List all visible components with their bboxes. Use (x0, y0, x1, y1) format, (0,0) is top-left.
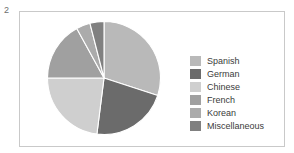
legend-item: German (190, 67, 282, 80)
pie-chart-svg (47, 21, 161, 135)
legend-item: Miscellaneous (190, 119, 282, 132)
chart-legend: SpanishGermanChineseFrenchKoreanMiscella… (190, 54, 282, 132)
legend-swatch-korean (190, 108, 201, 118)
legend-swatch-miscellaneous (190, 121, 201, 131)
legend-label: German (207, 69, 240, 79)
pie-slice-group (48, 22, 161, 135)
legend-item: Chinese (190, 80, 282, 93)
legend-swatch-spanish (190, 56, 201, 66)
legend-item: French (190, 93, 282, 106)
legend-label: Miscellaneous (207, 121, 264, 131)
figure-root: 2 SpanishGermanChineseFrenchKoreanMiscel… (0, 0, 294, 153)
legend-swatch-french (190, 95, 201, 105)
legend-item: Korean (190, 106, 282, 119)
legend-item: Spanish (190, 54, 282, 67)
legend-label: French (207, 95, 235, 105)
pie-chart-area: SpanishGermanChineseFrenchKoreanMiscella… (20, 12, 284, 146)
legend-label: Spanish (207, 56, 240, 66)
figure-number-label: 2 (4, 5, 9, 16)
legend-label: Chinese (207, 82, 240, 92)
legend-label: Korean (207, 108, 236, 118)
legend-swatch-german (190, 69, 201, 79)
pie-slice-chinese (48, 78, 105, 134)
figure-frame: SpanishGermanChineseFrenchKoreanMiscella… (19, 11, 285, 147)
legend-swatch-chinese (190, 82, 201, 92)
